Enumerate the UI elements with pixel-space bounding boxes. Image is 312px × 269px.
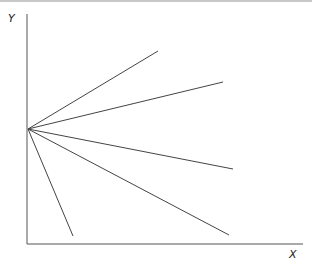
ray-4 xyxy=(28,129,229,235)
ray-5 xyxy=(28,129,73,236)
y-axis-label: Y xyxy=(8,12,15,25)
ray-2 xyxy=(28,82,223,129)
rays-group xyxy=(28,51,233,236)
ray-3 xyxy=(28,129,233,169)
diagram-canvas xyxy=(0,0,312,269)
ray-1 xyxy=(28,51,158,129)
x-axis-label: X xyxy=(289,248,297,261)
